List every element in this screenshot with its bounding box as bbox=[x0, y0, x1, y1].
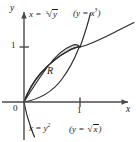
curve-label-cube-root-y: x = 3√y bbox=[29, 9, 58, 19]
x-tick-label-1: 1 bbox=[77, 106, 82, 115]
cube-root-equals: = bbox=[35, 9, 41, 19]
parabola-exponent: 2 bbox=[48, 122, 51, 128]
curve-label-y-equals-sqrt-x: (y = √x) bbox=[69, 124, 102, 134]
sqrt-equals: = bbox=[78, 124, 84, 134]
region-label-r: R bbox=[47, 66, 53, 76]
sqrt-radical: √x bbox=[87, 124, 99, 134]
sqrt-lhs: y bbox=[72, 124, 76, 134]
origin-label: 0 bbox=[13, 104, 18, 113]
cube-root-lhs: x bbox=[29, 9, 33, 19]
cube-root-radicand: y bbox=[52, 9, 58, 19]
paren-close-cubic: ) bbox=[97, 8, 100, 18]
paren-close-sqrt: ) bbox=[99, 124, 102, 134]
y-axis-arrowhead bbox=[21, 12, 27, 19]
curve-sqrt-x bbox=[24, 23, 134, 103]
parabola-lhs: x bbox=[29, 123, 33, 133]
cube-root-radical: 3√y bbox=[44, 9, 58, 19]
x-axis-label: x bbox=[126, 105, 130, 115]
math-figure: y x 0 1 1 R x = 3√y (y = x3) x = y2 (y =… bbox=[0, 0, 136, 142]
radical-index-3: 3 bbox=[46, 10, 48, 15]
y-tick-label-1: 1 bbox=[11, 41, 16, 50]
sqrt-radicand: x bbox=[93, 124, 99, 134]
curve-label-y-equals-x-cubed: (y = x3) bbox=[73, 9, 100, 18]
cubic-equals: = bbox=[82, 8, 88, 18]
parabola-equals: = bbox=[35, 123, 41, 133]
cubic-lhs: y bbox=[76, 8, 80, 18]
y-axis-label: y bbox=[10, 4, 14, 14]
figure-canvas bbox=[0, 0, 136, 142]
curve-label-x-equals-y-squared: x = y2 bbox=[29, 124, 50, 133]
